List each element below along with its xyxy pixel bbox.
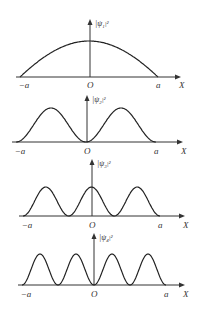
panel-psi3: |ψ3|²−aOaX	[19, 159, 189, 230]
origin-label: O	[91, 289, 98, 299]
panel-psi4: |ψ4|²−aOaX	[18, 233, 189, 299]
origin-label: O	[89, 220, 96, 230]
panel-psi2: |ψ2|²−aOaX	[12, 95, 187, 156]
x-axis-arrow-icon	[175, 75, 181, 80]
y-axis-label: |ψ4|²	[99, 233, 114, 243]
x-axis-label: X	[182, 220, 189, 230]
y-axis-label: |ψ3|²	[97, 159, 112, 169]
origin-label: O	[84, 146, 91, 156]
x-left-label: −a	[19, 80, 30, 90]
y-axis-label: |ψ1|²	[95, 19, 110, 29]
x-left-label: −a	[15, 146, 26, 156]
probability-curve-psi1	[20, 41, 158, 77]
probability-curve-psi2	[16, 108, 156, 142]
x-right-label: a	[158, 220, 163, 230]
probability-density-figure: |ψ1|²−aOaX|ψ2|²−aOaX|ψ3|²−aOaX|ψ4|²−aOaX	[0, 0, 197, 317]
x-left-label: −a	[21, 289, 32, 299]
x-right-label: a	[156, 80, 161, 90]
x-axis-label: X	[180, 146, 187, 156]
y-axis-arrow-icon	[85, 95, 90, 101]
x-axis-arrow-icon	[179, 214, 185, 219]
x-right-label: a	[154, 146, 159, 156]
y-axis-arrow-icon	[90, 159, 95, 165]
origin-label: O	[87, 80, 94, 90]
y-axis-arrow-icon	[88, 19, 93, 25]
x-axis-label: X	[178, 80, 185, 90]
x-right-label: a	[164, 289, 169, 299]
x-left-label: −a	[22, 220, 33, 230]
x-axis-arrow-icon	[179, 283, 185, 288]
panel-psi1: |ψ1|²−aOaX	[16, 19, 185, 90]
x-axis-label: X	[182, 289, 189, 299]
x-axis-arrow-icon	[177, 140, 183, 145]
y-axis-arrow-icon	[92, 233, 97, 239]
y-axis-label: |ψ2|²	[92, 95, 107, 105]
